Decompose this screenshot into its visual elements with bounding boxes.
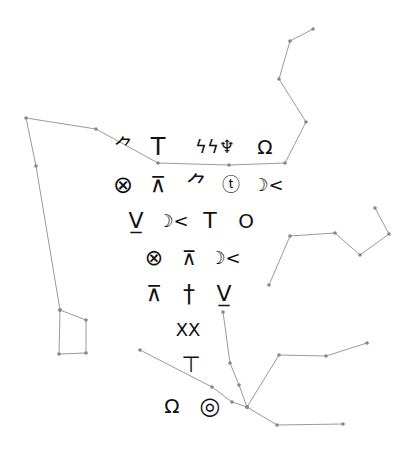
tee-glyph: T [151,135,166,159]
star-node [358,253,362,257]
lambda-bar-glyph: ⊼ [150,174,166,196]
constellation-right-path [267,206,391,287]
star-node [237,383,241,387]
constellation-bottom-branch [245,341,369,409]
moon-x-glyph: ☽< [209,249,240,267]
crossed-circle-glyph: ⊗ [145,247,163,269]
star-node [24,116,28,120]
star-node [84,351,88,355]
star-node [210,385,214,389]
star-node [267,283,271,287]
star-node [138,348,142,352]
star-node [230,400,234,404]
star-node [373,206,377,210]
star-node [227,163,231,167]
constellation-line [247,343,367,407]
tee-dagger-glyph: ⊤ [181,354,200,376]
star-node [277,77,281,81]
moon-circle-glyph: ◎ [200,394,221,418]
star-node [275,423,279,427]
star-node [304,120,308,124]
tee-glyph: T [203,210,216,232]
star-node [228,361,232,365]
star-node [333,231,337,235]
v-underline-glyph: V̲ [128,210,143,232]
keyhole-glyph: Ω [164,396,179,416]
star-node [58,308,62,312]
crossed-circle-glyph: ⊗ [113,173,133,197]
star-node [341,422,345,426]
moon-x-glyph: ☽< [252,176,283,194]
star-node [245,405,249,409]
climber-glyph: ⺈ [186,174,208,196]
keyhole-glyph: Ω [257,137,272,157]
star-node [387,232,391,236]
circle-glyph: O [238,211,254,231]
constellation-bottom-vertical [221,310,249,409]
star-node [288,234,292,238]
v-underline-glyph: V̲ [216,283,231,305]
star-node [84,318,88,322]
star-node [94,127,98,131]
star-node [311,27,315,31]
star-node [283,161,287,165]
constellation-line [223,312,247,407]
glyph-constellation-canvas: ⺈Tϟϟ♆Ω⊗⊼⺈ⓣ☽<V̲☽<TO⊗⊼☽<⊼†V̲XX⊤Ω◎ [0,0,413,455]
star-node [57,352,61,356]
star-node [277,353,281,357]
lambda-bar-glyph: ⊼ [146,283,162,305]
star-node [288,39,292,43]
runner-figure-glyph: ⺈ [114,137,134,157]
star-node [221,310,225,314]
lambda-bar-glyph: ⊼ [182,248,197,268]
star-node [156,161,160,165]
constellation-line [269,208,389,285]
double-x-glyph: XX [176,321,201,339]
star-node [324,354,328,358]
moon-x-glyph: ☽< [157,212,188,230]
star-node [365,341,369,345]
star-node [34,164,38,168]
wave-figure-glyph: ϟϟ♆ [195,138,235,156]
circled-t-glyph: ⓣ [222,176,240,194]
dagger-glyph: † [183,282,195,306]
